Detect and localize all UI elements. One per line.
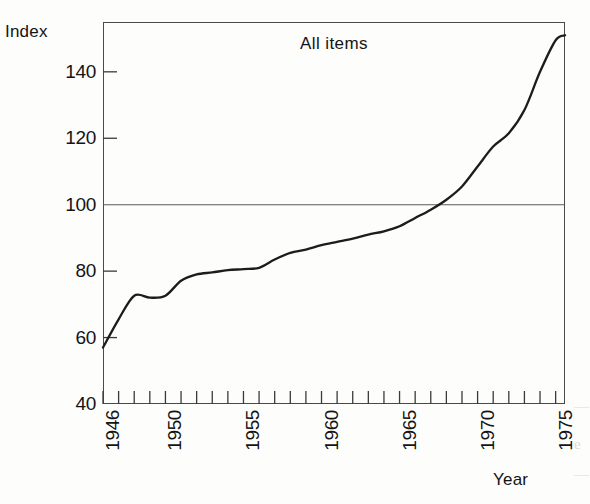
- x-tick-label: 1950: [164, 410, 186, 451]
- chart-title: All items: [103, 34, 565, 54]
- y-tick-label: 140: [65, 61, 96, 83]
- margin-bleed-mark-2: e: [574, 436, 581, 453]
- x-axis-tick-labels: 1946195019551960196519701975: [103, 404, 565, 504]
- x-tick-label: 1970: [477, 410, 499, 451]
- data-line-all-items: [103, 35, 565, 347]
- margin-bleed-mark-3: —: [574, 466, 589, 483]
- margin-bleed-mark-1: —: [574, 398, 589, 415]
- line-chart-canvas: [103, 22, 565, 404]
- figure-page: Index Year 406080100120140 All items 194…: [0, 0, 590, 504]
- y-axis-tick-labels: 406080100120140: [30, 22, 96, 404]
- y-tick-label: 60: [75, 327, 96, 349]
- y-tick-label: 80: [75, 260, 96, 282]
- x-tick-label: 1960: [321, 410, 343, 451]
- x-tick-label: 1955: [242, 410, 264, 451]
- plot-area: All items: [103, 22, 565, 404]
- y-tick-label: 120: [65, 127, 96, 149]
- x-tick-label: 1965: [399, 410, 421, 451]
- y-tick-label: 100: [65, 194, 96, 216]
- x-tick-label: 1946: [102, 410, 124, 451]
- y-tick-label: 40: [75, 393, 96, 415]
